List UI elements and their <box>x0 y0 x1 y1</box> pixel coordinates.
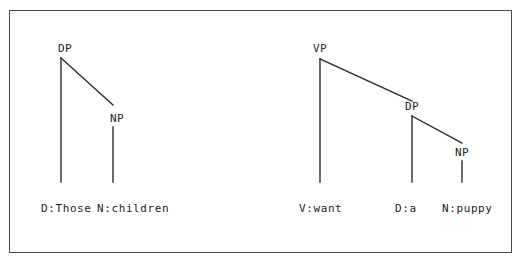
diagram-frame <box>9 10 512 253</box>
figure-root: DPNPVPDPNP D:ThoseN:childrenV:wantD:aN:p… <box>0 0 523 266</box>
